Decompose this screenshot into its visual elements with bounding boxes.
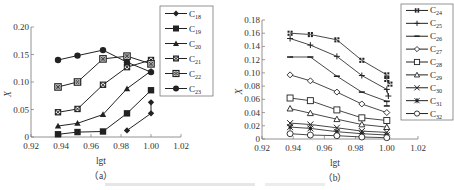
circle-cross-marker-icon: [55, 109, 61, 115]
legend: C24C25C26C27C28C29C30C31C32: [401, 4, 453, 120]
series-C26: [287, 57, 390, 106]
y-axis-label: X: [3, 90, 13, 98]
square-open-marker-icon: [414, 59, 419, 64]
y-tick-label: 0.08: [244, 81, 260, 91]
square-cross-marker-icon: [173, 71, 179, 77]
circle-filled-marker-icon: [74, 52, 80, 58]
legend: C18C19C20C21C22C23: [160, 6, 213, 96]
circle-filled-marker-icon: [148, 69, 154, 75]
y-tick-label: 0.10: [244, 68, 260, 78]
x-tick-label: 1.02: [173, 141, 189, 151]
y-tick-label: 0.18: [244, 15, 260, 25]
x-axis-label: lgt: [96, 156, 106, 166]
y-tick-label: 0.10: [13, 77, 29, 87]
circle-open-marker-icon: [359, 134, 365, 140]
square-open-marker-icon: [384, 117, 390, 123]
y-tick-label: 0.02: [244, 121, 260, 131]
y-axis-label: X: [234, 87, 244, 95]
y-tick-label: 0.05: [13, 105, 29, 115]
x-tick-label: 0.98: [348, 143, 364, 153]
x-axis-label: lgt: [330, 158, 340, 168]
square-filled-marker-icon: [55, 131, 61, 137]
x-tick-label: 0.92: [254, 143, 270, 153]
faint-caption: [105, 183, 255, 186]
circle-cross-marker-icon: [74, 106, 80, 112]
square-open-marker-icon: [307, 98, 313, 104]
x-tick-label: 0.94: [285, 143, 301, 153]
plus-marker-icon: [307, 42, 313, 48]
square-filled-marker-icon: [100, 128, 106, 134]
square-cross-marker-icon: [100, 56, 106, 62]
circle-open-marker-icon: [307, 132, 313, 138]
chart-a: 00.050.100.150.200.920.940.960.981.001.0…: [3, 6, 213, 181]
triangle-open-marker-icon: [287, 106, 293, 111]
panel-label: （b）: [323, 172, 348, 183]
y-tick-label: 0.16: [244, 28, 260, 38]
square-cross-marker-icon: [148, 61, 154, 67]
series-C20: [55, 68, 154, 129]
x-tick-label: 1.00: [379, 143, 395, 153]
circle-open-marker-icon: [334, 133, 340, 139]
chart-b: 00.020.040.060.080.100.120.140.160.180.9…: [234, 4, 453, 183]
faint-caption: [265, 183, 325, 186]
diamond-open-marker-icon: [384, 110, 390, 116]
y-tick-label: 0.04: [244, 108, 260, 118]
square-filled-marker-icon: [74, 129, 80, 135]
diamond-open-marker-icon: [287, 72, 293, 78]
x-tick-label: 1.00: [143, 141, 159, 151]
circle-filled-marker-icon: [100, 47, 106, 53]
y-tick-label: 0.06: [244, 94, 260, 104]
square-filled-marker-icon: [173, 26, 179, 32]
figure-canvas: 00.050.100.150.200.920.940.960.981.001.0…: [0, 0, 454, 190]
series-C25: [287, 36, 391, 100]
circle-filled-marker-icon: [173, 86, 179, 92]
square-open-marker-icon: [287, 95, 293, 101]
plus-marker-icon: [385, 93, 391, 99]
square-cross-marker-icon: [74, 79, 80, 85]
x-tick-label: 0.92: [23, 141, 39, 151]
diamond-filled-marker-icon: [148, 99, 154, 105]
square-open-marker-icon: [359, 115, 365, 121]
circle-open-marker-icon: [414, 111, 419, 116]
square-filled-marker-icon: [148, 87, 154, 93]
plus-marker-icon: [287, 36, 293, 42]
panel-label: （a）: [89, 170, 113, 181]
square-cross-marker-icon: [55, 84, 61, 90]
circle-open-marker-icon: [287, 131, 293, 137]
x-tick-label: 0.96: [317, 143, 333, 153]
x-tick-label: 0.94: [53, 141, 69, 151]
diamond-open-marker-icon: [359, 101, 365, 107]
circle-filled-marker-icon: [55, 57, 61, 63]
y-tick-label: 0.15: [13, 50, 29, 60]
x-tick-label: 0.96: [83, 141, 99, 151]
square-open-marker-icon: [334, 107, 340, 113]
y-tick-label: 0.12: [244, 55, 260, 65]
y-tick-label: 0.14: [244, 41, 260, 51]
square-cross-marker-icon: [124, 53, 130, 59]
circle-filled-marker-icon: [124, 59, 130, 65]
plus-marker-icon: [384, 86, 390, 92]
square-filled-marker-icon: [124, 110, 130, 116]
circle-cross-marker-icon: [100, 82, 106, 88]
diamond-open-marker-icon: [307, 78, 313, 84]
circle-cross-marker-icon: [173, 56, 179, 62]
diamond-open-marker-icon: [334, 89, 340, 95]
circle-open-marker-icon: [384, 135, 390, 141]
diamond-filled-marker-icon: [124, 127, 130, 133]
y-tick-label: 0.20: [13, 22, 29, 32]
triangle-filled-marker-icon: [124, 85, 130, 91]
series-C21: [55, 57, 154, 116]
x-tick-label: 1.02: [410, 143, 426, 153]
quad-squares-marker-icon: [387, 82, 392, 87]
x-tick-label: 0.98: [113, 141, 129, 151]
